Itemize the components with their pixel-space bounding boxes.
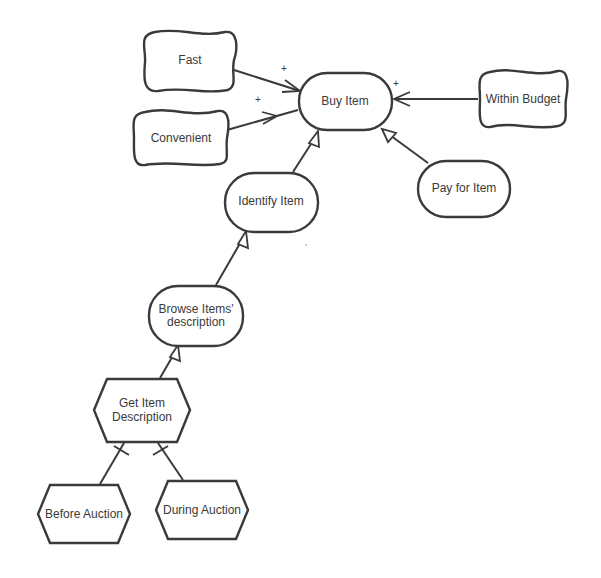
link-during-auction-to-getitem: [153, 443, 183, 480]
softgoal-convenient-label: Convenient: [151, 131, 212, 145]
task-before-auction-label: Before Auction: [45, 507, 123, 521]
softgoal-fast-label: Fast: [178, 53, 202, 67]
softgoal-within-budget-label: Within Budget: [486, 92, 561, 106]
contribution-sign-convenient: +: [255, 94, 261, 105]
task-get-item-label-line1: Get Item: [119, 396, 165, 410]
contribution-sign-fast: +: [281, 63, 287, 74]
goal-model-diagram: + + + Fast: [0, 0, 601, 578]
link-identify-to-buy-item: [293, 131, 319, 172]
task-get-item-label-line2: Description: [112, 410, 172, 424]
goal-identify-item[interactable]: Identify Item: [225, 173, 318, 232]
softgoal-fast[interactable]: Fast: [144, 31, 236, 92]
link-within-budget-to-buy-item: [394, 92, 478, 106]
task-during-auction-label: During Auction: [163, 503, 241, 517]
link-getitem-to-browse: [160, 345, 180, 378]
softgoal-convenient[interactable]: Convenient: [134, 110, 229, 165]
goal-buy-item[interactable]: Buy Item: [299, 73, 392, 130]
softgoal-within-budget[interactable]: Within Budget: [479, 70, 567, 127]
task-during-auction[interactable]: During Auction: [156, 481, 248, 539]
contribution-sign-budget: +: [393, 78, 399, 89]
link-convenient-to-buy-item: [227, 110, 298, 130]
link-fast-to-buy-item: [234, 70, 300, 92]
link-pay-to-buy-item: [382, 129, 428, 163]
goal-browse-label-line2: description: [167, 315, 225, 329]
goal-browse-label-line1: Browse Items': [159, 302, 234, 316]
stray-dot: [305, 244, 307, 246]
link-before-auction-to-getitem: [100, 443, 129, 484]
task-before-auction[interactable]: Before Auction: [38, 485, 130, 543]
task-get-item-description[interactable]: Get Item Description: [94, 379, 190, 442]
goal-pay-for-item-label: Pay for Item: [432, 181, 497, 195]
goal-buy-item-label: Buy Item: [321, 94, 368, 108]
goal-identify-item-label: Identify Item: [238, 194, 303, 208]
goal-pay-for-item[interactable]: Pay for Item: [418, 161, 510, 217]
goal-browse-items-description[interactable]: Browse Items' description: [149, 286, 243, 346]
link-browse-to-identify: [216, 231, 248, 285]
